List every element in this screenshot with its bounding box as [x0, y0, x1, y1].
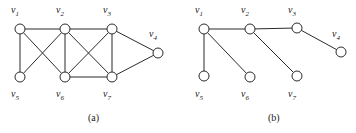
graph-node-v1	[199, 24, 209, 34]
vertex-label-v3: v3	[288, 5, 296, 18]
vertex-label-subscript: 7	[107, 94, 111, 102]
vertex-label-v6: v6	[241, 89, 249, 102]
vertex-label-v5: v5	[11, 89, 19, 102]
graph-node-v7	[107, 72, 117, 82]
graph-node-v7	[292, 71, 302, 81]
vertex-label-subscript: 3	[107, 10, 111, 18]
panel-caption-panel-a: (a)	[88, 112, 99, 123]
vertex-label-subscript: 5	[15, 94, 19, 102]
vertex-label-subscript: 3	[292, 10, 296, 18]
vertex-label-subscript: 4	[153, 34, 157, 42]
graph-node-v5	[15, 72, 25, 82]
vertex-label-v1: v1	[195, 5, 203, 18]
graph-node-v1	[15, 24, 25, 34]
graph-edge	[254, 33, 294, 73]
vertex-label-subscript: 5	[199, 94, 203, 102]
graph-edge	[207, 33, 246, 74]
graph-figure: v1v2v3v4v5v6v7(a)v1v2v3v4v5v6v7(b)	[0, 0, 356, 133]
graph-node-v3	[107, 24, 117, 34]
graph-node-v2	[245, 24, 255, 34]
graph-node-v4	[153, 48, 163, 58]
vertex-label-v4: v4	[149, 29, 157, 42]
panel-a	[15, 24, 163, 82]
graph-node-v6	[245, 72, 255, 82]
edge-group	[20, 29, 154, 77]
vertex-label-v3: v3	[103, 5, 111, 18]
graph-node-v2	[60, 24, 70, 34]
vertex-label-v7: v7	[288, 89, 296, 102]
vertex-label-subscript: 1	[15, 10, 19, 18]
vertex-label-v6: v6	[56, 89, 64, 102]
graph-node-v5	[199, 71, 209, 81]
node-group	[199, 23, 346, 82]
vertex-label-v4: v4	[332, 29, 340, 42]
vertex-label-subscript: 6	[60, 94, 64, 102]
graph-node-v3	[292, 23, 302, 33]
vertex-label-subscript: 4	[336, 34, 340, 42]
graph-edge	[116, 55, 153, 74]
graph-canvas	[0, 0, 356, 133]
vertex-label-subscript: 1	[199, 10, 203, 18]
vertex-label-subscript: 2	[60, 10, 64, 18]
graph-edge	[255, 28, 292, 29]
vertex-label-v2: v2	[241, 5, 249, 18]
vertex-label-v1: v1	[11, 5, 19, 18]
vertex-label-v2: v2	[56, 5, 64, 18]
vertex-label-subscript: 6	[245, 94, 249, 102]
panel-b	[199, 23, 346, 82]
vertex-label-v5: v5	[195, 89, 203, 102]
graph-edge	[116, 31, 153, 50]
vertex-label-v7: v7	[103, 89, 111, 102]
graph-node-v6	[60, 72, 70, 82]
vertex-label-subscript: 7	[292, 94, 296, 102]
graph-node-v4	[336, 47, 346, 57]
panel-caption-panel-b: (b)	[268, 112, 280, 123]
vertex-label-subscript: 2	[245, 10, 249, 18]
edge-group	[204, 28, 337, 73]
